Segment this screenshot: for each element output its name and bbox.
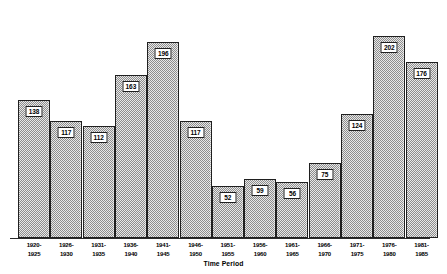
x-axis-line	[10, 238, 430, 239]
bar[interactable]: 56	[276, 182, 308, 238]
bar[interactable]: 138	[18, 100, 50, 238]
bar-value-label: 75	[316, 169, 333, 180]
bar[interactable]: 59	[244, 179, 276, 238]
x-axis-tick-label-line: 1981-	[403, 241, 441, 250]
bar[interactable]: 52	[212, 186, 244, 238]
bar-value-label: 124	[349, 120, 366, 131]
bar-value-label: 56	[284, 188, 301, 199]
bar[interactable]: 176	[406, 62, 438, 238]
bar-value-label: 176	[413, 68, 430, 79]
plot-area: 13811711216319611752595675124202176	[14, 6, 436, 238]
bar[interactable]: 163	[115, 75, 147, 238]
bar[interactable]: 117	[50, 121, 82, 238]
bar-value-label: 202	[381, 42, 398, 53]
bar-chart: 13811711216319611752595675124202176 1920…	[0, 0, 447, 274]
bar[interactable]: 75	[309, 163, 341, 238]
bar[interactable]: 196	[147, 42, 179, 238]
bar[interactable]: 112	[83, 126, 115, 238]
bar[interactable]: 117	[180, 121, 212, 238]
bar-value-label: 163	[122, 81, 139, 92]
bar-value-label: 59	[252, 185, 269, 196]
x-axis-title: Time Period	[0, 259, 447, 268]
bar-value-label: 138	[26, 106, 43, 117]
bar-value-label: 112	[90, 132, 107, 143]
x-axis-tick-label: 1981-1985	[403, 241, 441, 258]
bar-value-label: 117	[58, 127, 75, 138]
bar[interactable]: 202	[373, 36, 405, 238]
bar-value-label: 117	[187, 127, 204, 138]
bar[interactable]: 124	[341, 114, 373, 238]
x-axis-tick-label-line: 1985	[403, 250, 441, 259]
bar-value-label: 52	[219, 192, 236, 203]
bar-value-label: 196	[155, 48, 172, 59]
